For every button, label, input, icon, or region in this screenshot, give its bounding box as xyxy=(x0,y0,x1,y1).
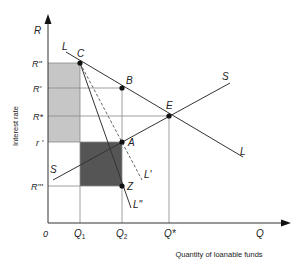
tick-r-small-prime: r ' xyxy=(36,138,43,148)
label-c: C xyxy=(77,48,85,59)
label-s-right: S xyxy=(222,71,229,82)
light-shaded-area xyxy=(48,63,80,142)
label-z: Z xyxy=(126,181,134,192)
label-l-right: L xyxy=(240,146,246,157)
point-b xyxy=(119,85,124,90)
y-axis-symbol: R xyxy=(34,25,41,36)
point-z xyxy=(119,183,124,188)
label-l-prime: L' xyxy=(144,169,153,180)
tick-r-triple-prime: R''' xyxy=(31,182,43,192)
point-c xyxy=(77,60,82,65)
point-e xyxy=(166,113,171,118)
label-b: B xyxy=(126,75,133,86)
tick-r-double-prime: R" xyxy=(32,59,42,69)
label-a: A xyxy=(127,137,135,148)
label-s-left: S xyxy=(50,164,57,175)
demand-curve-L xyxy=(66,52,243,157)
axes xyxy=(45,14,292,227)
point-a xyxy=(119,139,124,144)
loanable-funds-diagram: R Q 0 R" R' R* r ' R''' Q1 Q2 Q* C B E A… xyxy=(0,0,303,266)
tick-r-star: R* xyxy=(33,112,43,122)
tick-q2: Q2 xyxy=(116,228,128,240)
tick-q-star: Q* xyxy=(164,228,177,239)
origin-label: 0 xyxy=(43,229,48,239)
label-l-left: L xyxy=(62,41,68,52)
tick-r-prime: R' xyxy=(33,84,41,94)
x-axis-symbol: Q xyxy=(256,228,264,239)
x-axis-title: Quantity of loanable funds xyxy=(175,250,262,259)
tick-q1: Q1 xyxy=(74,228,86,240)
y-axis-arrow-icon xyxy=(45,14,52,24)
y-axis-title: Interest rate xyxy=(11,106,20,146)
x-axis-arrow-icon xyxy=(281,220,291,227)
label-l-double-prime: L" xyxy=(133,199,143,210)
label-e: E xyxy=(166,100,173,111)
